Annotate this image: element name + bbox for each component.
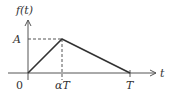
peak-label: A <box>12 33 21 46</box>
pulse-curve <box>28 39 130 73</box>
triangular-pulse-diagram: f(t) A 0 αT T t <box>0 0 173 97</box>
y-axis-label: f(t) <box>15 4 33 17</box>
origin-label: 0 <box>16 79 23 92</box>
diagram-canvas: f(t) A 0 αT T t <box>0 0 173 97</box>
peak-time-label: αT <box>55 79 71 92</box>
x-axis-label: t <box>160 67 165 80</box>
end-time-label: T <box>126 79 135 92</box>
